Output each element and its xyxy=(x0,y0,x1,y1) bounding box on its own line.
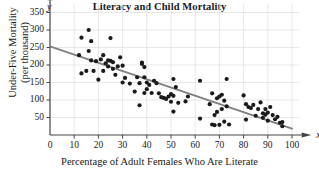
x-tick-label: 20 xyxy=(86,141,110,151)
x-tick-label: 50 xyxy=(159,141,183,151)
x-tick-label: 30 xyxy=(111,141,135,151)
y-axis-title-line2: (per thousand) xyxy=(18,0,30,112)
y-axis-title-line1: Under-Five Mortality xyxy=(7,0,19,112)
scatter-chart-figure: Literacy and Child Mortality 50100150200… xyxy=(0,0,319,177)
tick-marks xyxy=(47,13,293,139)
x-tick-label: 0 xyxy=(38,141,62,151)
x-tick-label: 100 xyxy=(280,141,304,151)
x-axis-title: Percentage of Adult Females Who Are Lite… xyxy=(0,156,319,167)
x-tick-label: 90 xyxy=(256,141,280,151)
x-tick-label: 70 xyxy=(207,141,231,151)
x-tick-label: 10 xyxy=(62,141,86,151)
y-axis-title: Under-Five Mortality (per thousand) xyxy=(7,0,30,112)
x-axis-name-label: x xyxy=(316,129,319,140)
y-tick-label: 50 xyxy=(22,113,44,123)
x-tick-label: 60 xyxy=(183,141,207,151)
data-points xyxy=(77,28,284,128)
y-axis-name-label: y xyxy=(47,1,51,12)
x-tick-label: 40 xyxy=(135,141,159,151)
axis-lines xyxy=(47,0,311,138)
x-tick-label: 80 xyxy=(232,141,256,151)
